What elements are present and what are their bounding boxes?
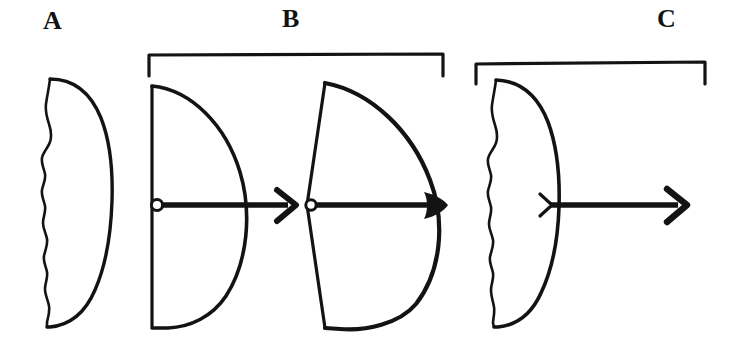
panel-label-c: C <box>657 6 676 32</box>
panel-b-arrow-2 <box>306 192 448 219</box>
panel-a-crescent <box>42 79 112 327</box>
panel-label-b: B <box>282 6 300 32</box>
bracket-b <box>149 54 443 76</box>
panel-label-a: A <box>43 8 62 34</box>
panel-b-arrow-1 <box>151 190 296 221</box>
panel-c-arrow <box>540 189 687 222</box>
figure-canvas: A B C <box>0 0 745 347</box>
diagram-svg <box>0 0 745 347</box>
